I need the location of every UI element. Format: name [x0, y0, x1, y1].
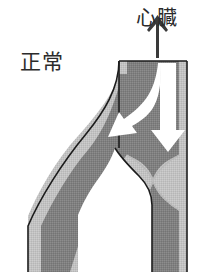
- vessel-illustration: [0, 0, 208, 278]
- label-normal: 正常: [20, 52, 63, 73]
- label-heart: 心臓: [136, 8, 177, 28]
- venous-valve-diagram: 正常 心臓: [0, 0, 208, 278]
